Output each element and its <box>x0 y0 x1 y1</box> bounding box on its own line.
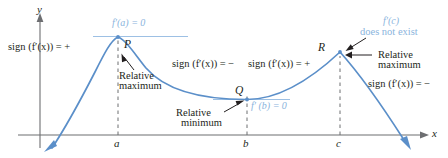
y-axis-label: y <box>37 4 42 16</box>
leader-arrow-fprime-c <box>346 38 367 51</box>
annotation-rel-max-c-line2: maximum <box>378 59 421 70</box>
calculus-derivative-sign-figure: y x a b c P Q R f′(a) = 0 f′ (b) = 0 f′(… <box>0 0 448 158</box>
curve-arrow-right <box>400 136 411 150</box>
leader-arrow-rel-max-c <box>345 52 372 59</box>
x-tick-label-b: b <box>243 138 249 150</box>
point-marker-p <box>116 35 120 39</box>
sign-label-mid-left: sign (f′(x)) = − <box>172 58 234 69</box>
sign-label-right: sign (f′(x)) = − <box>368 78 430 89</box>
point-label-p: P <box>124 38 131 50</box>
derivative-note-at-b: f′ (b) = 0 <box>251 101 287 112</box>
point-marker-r <box>338 50 342 54</box>
x-tick-label-c: c <box>336 138 341 150</box>
sign-label-mid-right: sign (f′(x)) = + <box>248 58 310 69</box>
x-axis <box>18 132 429 139</box>
sign-label-left: sign (f′(x)) = + <box>8 41 70 52</box>
point-label-r: R <box>318 41 325 53</box>
point-marker-q <box>245 98 249 102</box>
derivative-note-at-a: f′(a) = 0 <box>112 18 145 29</box>
annotation-rel-min-b-line2: minimum <box>181 117 222 128</box>
x-tick-label-a: a <box>114 138 120 150</box>
annotation-rel-max-a-line2: maximum <box>119 80 162 91</box>
derivative-note-at-c-line1: f′(c) <box>383 16 399 27</box>
point-label-q: Q <box>235 84 243 96</box>
y-axis <box>37 13 44 148</box>
leader-arrow-rel-min-b <box>224 101 245 113</box>
x-axis-label: x <box>432 128 437 140</box>
derivative-note-at-c-line2: does not exist <box>360 26 418 37</box>
leader-arrow-rel-max-a <box>122 54 135 71</box>
